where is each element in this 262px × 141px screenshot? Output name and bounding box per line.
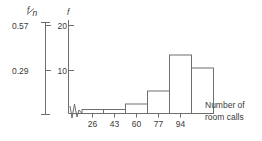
x-tick-label-94: 94 [176,119,186,129]
fn-axis-name: f n [27,5,38,18]
fn-tick-label-057: 0.57 [12,21,29,31]
histogram-bars [82,55,214,114]
f-tick-label-10: 10 [58,66,68,76]
x-axis-break-icon [70,104,82,118]
f-tick-label-20: 20 [58,21,68,31]
frequency-axis [69,20,75,114]
fn-tick-label-029: 0.29 [12,66,29,76]
bar-77 [170,55,192,114]
x-axis-caption-line1: Number of [205,100,245,110]
x-tick-label-43: 43 [110,119,120,129]
histogram-svg: f n 0.57 0.29 f 20 10 26 43 60 [0,0,262,141]
bar-leading [82,110,104,114]
fn-axis-name-denominator: n [33,8,38,18]
bar-26 [104,110,126,114]
f-axis-name: f [67,7,71,17]
relative-frequency-axis [41,22,51,115]
x-axis [69,104,206,118]
x-tick-label-77: 77 [154,119,164,129]
bar-43 [126,104,148,114]
x-tick-label-26: 26 [88,119,98,129]
bar-60 [148,91,170,114]
x-axis-caption-line2: room calls [205,112,244,122]
histogram-figure: f n 0.57 0.29 f 20 10 26 43 60 [0,0,262,141]
x-tick-label-60: 60 [132,119,142,129]
